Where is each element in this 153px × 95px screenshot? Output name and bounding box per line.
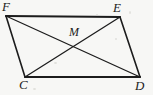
vertex-label-d: D	[135, 79, 144, 92]
vertex-label-f: F	[2, 0, 10, 13]
vertex-label-m: M	[69, 26, 79, 39]
vertex-label-c: C	[19, 78, 28, 91]
side-cf-line	[6, 16, 25, 77]
scan-speck	[33, 88, 36, 90]
scan-speck	[54, 62, 57, 64]
side-ed-line	[120, 17, 140, 77]
scan-speck	[96, 14, 98, 16]
scan-speck	[129, 11, 131, 14]
side-fe-line	[6, 16, 120, 17]
vertex-label-e: E	[113, 1, 121, 14]
scan-speck	[115, 38, 117, 40]
geometry-figure: F E C D M	[0, 0, 153, 95]
